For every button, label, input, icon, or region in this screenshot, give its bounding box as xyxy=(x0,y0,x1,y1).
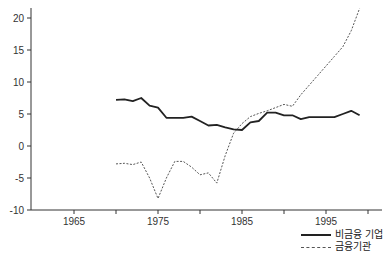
legend-label: 비금융 기업 xyxy=(335,229,383,241)
legend-item-financial: 금융기관 xyxy=(301,241,383,253)
y-tick-label: 0 xyxy=(18,141,24,152)
y-tick-label: 5 xyxy=(18,109,24,120)
y-tick-label: -5 xyxy=(15,173,24,184)
x-tick-label: 1985 xyxy=(231,216,254,227)
x-tick-label: 1975 xyxy=(147,216,170,227)
series-financial-line xyxy=(116,8,360,198)
x-tick-label: 1995 xyxy=(315,216,338,227)
y-tick-label: 15 xyxy=(13,45,25,56)
dashed-line-swatch-icon xyxy=(301,247,331,248)
legend-label: 금융기관 xyxy=(335,241,371,253)
y-tick-label: 20 xyxy=(13,13,25,24)
series-lines xyxy=(116,8,360,198)
series-nonfinancial-line xyxy=(116,98,360,130)
y-tick-label: -10 xyxy=(10,205,25,216)
solid-line-swatch-icon xyxy=(301,234,331,236)
legend-item-nonfinancial: 비금융 기업 xyxy=(301,229,383,241)
x-tick-label: 1965 xyxy=(63,216,86,227)
legend: 비금융 기업 금융기관 xyxy=(301,229,383,253)
y-tick-label: 10 xyxy=(13,77,25,88)
line-chart: 20151050-5-101965197519851995 xyxy=(0,0,390,261)
